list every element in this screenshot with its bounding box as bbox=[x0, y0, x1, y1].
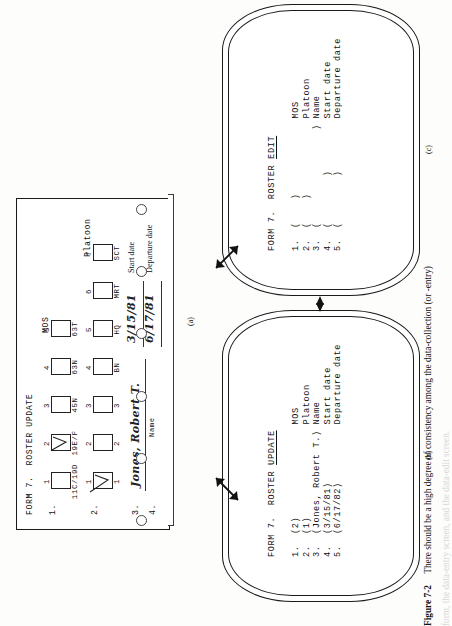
figure-number: Figure 7-2 bbox=[423, 585, 433, 626]
figure-caption: Figure 7-2 There should be a high degree… bbox=[422, 266, 434, 626]
figure-caption-line-1: There should be a high degree of consist… bbox=[423, 266, 433, 574]
figure-caption-continued: form, the data-entry screen, and the dat… bbox=[440, 431, 452, 626]
arrow-form-to-edit bbox=[216, 246, 238, 268]
figure-caption-line-2: form, the data-entry screen, and the dat… bbox=[441, 431, 451, 626]
arrow-form-to-update bbox=[216, 478, 238, 500]
arrow-update-to-edit bbox=[316, 296, 324, 312]
